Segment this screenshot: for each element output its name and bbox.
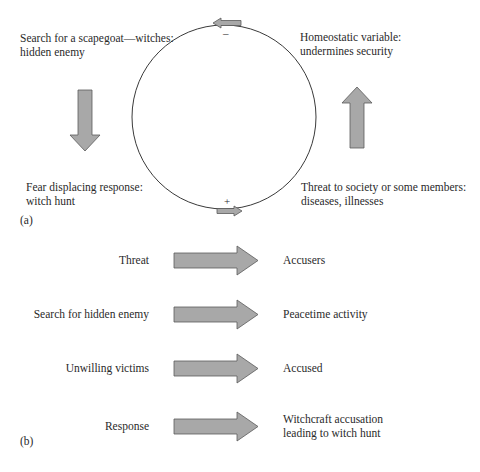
down-arrow-icon bbox=[70, 90, 100, 151]
row-right-line: Accusers bbox=[283, 253, 325, 267]
panel-a-label: (a) bbox=[20, 213, 33, 227]
diagram-graphics bbox=[0, 0, 480, 472]
node-homeostatic-line1: Homeostatic variable: bbox=[300, 30, 401, 44]
row-arrow-icon bbox=[174, 354, 258, 383]
row-right-line: Accused bbox=[283, 361, 323, 375]
row-right-accused: Accused bbox=[283, 361, 323, 375]
up-arrow-icon bbox=[342, 87, 372, 148]
node-homeostatic-variable: Homeostatic variable: undermines securit… bbox=[300, 30, 401, 58]
row-right-peacetime: Peacetime activity bbox=[283, 307, 368, 321]
row-left-response: Response bbox=[105, 419, 149, 433]
row-left-search: Search for hidden enemy bbox=[34, 307, 149, 321]
row-right-witchcraft: Witchcraft accusation leading to witch h… bbox=[283, 412, 383, 440]
node-scapegoat: Search for a scapegoat—witches: hidden e… bbox=[20, 31, 174, 59]
row-right-line: Witchcraft accusation bbox=[283, 412, 383, 426]
row-right-line: leading to witch hunt bbox=[283, 426, 383, 440]
row-left-victims: Unwilling victims bbox=[66, 361, 149, 375]
row-arrow-icon bbox=[174, 412, 258, 441]
node-scapegoat-line2: hidden enemy bbox=[20, 45, 174, 59]
row-right-accusers: Accusers bbox=[283, 253, 325, 267]
node-scapegoat-line1: Search for a scapegoat—witches: bbox=[20, 31, 174, 45]
node-threat-to-society: Threat to society or some members: disea… bbox=[301, 180, 466, 208]
panel-b-label: (b) bbox=[20, 434, 33, 448]
negative-sign: – bbox=[223, 28, 229, 39]
node-threat-line1: Threat to society or some members: bbox=[301, 180, 466, 194]
row-left-threat: Threat bbox=[119, 253, 149, 267]
row-arrow-icon bbox=[174, 300, 258, 329]
positive-sign: + bbox=[224, 196, 230, 207]
node-fear-line1: Fear displacing response: bbox=[26, 180, 143, 194]
node-fear-line2: witch hunt bbox=[26, 194, 143, 208]
node-threat-line2: diseases, illnesses bbox=[301, 194, 466, 208]
row-right-line: Peacetime activity bbox=[283, 307, 368, 321]
node-fear-response: Fear displacing response: witch hunt bbox=[26, 180, 143, 208]
node-homeostatic-line2: undermines security bbox=[300, 44, 401, 58]
row-arrow-icon bbox=[174, 246, 258, 275]
